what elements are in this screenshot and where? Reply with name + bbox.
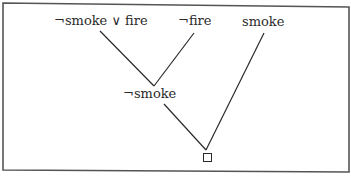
node-premise-not-smoke-or-fire: ¬smoke ∨ fire (54, 14, 148, 27)
edge-premise1-to-resolvent (100, 31, 154, 86)
empty-clause-box-icon (203, 153, 212, 162)
node-premise-not-fire: ¬fire (178, 14, 211, 27)
edge-resolvent-to-empty (164, 104, 206, 150)
node-premise-smoke: smoke (242, 15, 284, 28)
edge-premise2-to-resolvent (154, 33, 194, 86)
edge-premise3-to-empty (206, 33, 264, 150)
node-resolvent-not-smoke: ¬smoke (123, 87, 176, 100)
